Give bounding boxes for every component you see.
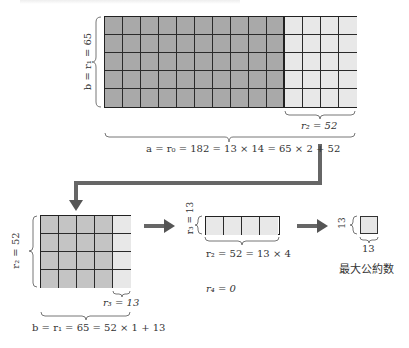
result-bottom-label: 13 — [362, 243, 375, 254]
gcd-caption: 最大公約数 — [339, 260, 394, 276]
grid-cell — [260, 217, 278, 235]
step2-total-brace — [41, 312, 130, 320]
grid-cell — [242, 217, 260, 235]
step3-side-label: r₃ = 13 — [185, 193, 195, 243]
grid-cell — [95, 270, 113, 288]
arrowhead-right-icon-2 — [317, 219, 328, 233]
grid-cell — [77, 216, 95, 234]
grid-cell — [113, 234, 131, 252]
step3-strip — [205, 216, 280, 235]
step1-total-brace — [105, 133, 355, 142]
grid-cell — [95, 252, 113, 270]
grid-cell — [224, 217, 242, 235]
step1-remainder-label: r₂ = 52 — [301, 120, 337, 131]
result-side-brace — [350, 216, 357, 234]
grid-cell — [41, 270, 59, 288]
grid-cell — [59, 216, 77, 234]
step2-grid — [40, 215, 131, 288]
gcd-square — [360, 216, 378, 234]
arrowhead-down-icon — [69, 200, 83, 211]
grid-cell — [41, 234, 59, 252]
grid-cell — [77, 270, 95, 288]
grid-cell — [59, 234, 77, 252]
grid-cell — [41, 252, 59, 270]
arrowhead-right-icon — [164, 219, 175, 233]
step2-side-label: r₂ = 52 — [10, 226, 21, 276]
grid-cell — [77, 234, 95, 252]
grid-cell — [113, 252, 131, 270]
result-side-label: 13 — [337, 208, 347, 238]
grid-cell — [113, 216, 131, 234]
grid-cell — [59, 270, 77, 288]
braces-and-arrows-layer — [0, 0, 409, 348]
grid-cell — [206, 217, 224, 235]
step1-remainder-brace — [285, 111, 355, 119]
grid-cell — [59, 252, 77, 270]
grid-cell — [95, 234, 113, 252]
step2-side-brace — [29, 216, 37, 287]
step1-side-brace — [92, 17, 101, 107]
step3-bottom-brace — [205, 237, 279, 245]
step1-side-label: b = r₁ = 65 — [82, 22, 93, 102]
grid-cell — [113, 270, 131, 288]
step3-side-brace — [195, 216, 202, 234]
step1-formula: a = r₀ = 182 = 13 × 14 = 65 × 2 + 52 — [146, 143, 340, 154]
step3-remainder-label: r₄ = 0 — [206, 283, 236, 294]
step2-formula: b = r₁ = 65 = 52 × 1 + 13 — [32, 322, 165, 333]
step2-remainder-label: r₃ = 13 — [103, 297, 139, 308]
grid-cell — [95, 216, 113, 234]
grid-cell — [77, 252, 95, 270]
grid-cell — [41, 216, 59, 234]
step3-formula: r₂ = 52 = 13 × 4 — [206, 248, 291, 259]
